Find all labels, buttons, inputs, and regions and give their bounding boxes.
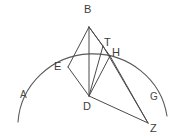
vertex-label-t: T [104, 37, 111, 48]
segment-e-d [68, 67, 89, 96]
geometry-figure: B T H E D Z A G [0, 0, 176, 138]
segment-h-d [89, 56, 110, 96]
outer-arc [18, 54, 167, 122]
vertex-label-b: B [84, 4, 91, 15]
region-label-a: A [20, 90, 27, 100]
vertex-label-d: D [83, 101, 91, 112]
segment-d-z [89, 96, 148, 123]
vertex-label-h: H [112, 47, 120, 58]
vertex-label-e: E [54, 61, 61, 72]
segment-t-z [103, 46, 148, 123]
figure-canvas [0, 0, 176, 138]
segment-b-e [68, 27, 89, 67]
region-label-g: G [150, 92, 158, 102]
vertex-label-z: Z [150, 123, 157, 134]
